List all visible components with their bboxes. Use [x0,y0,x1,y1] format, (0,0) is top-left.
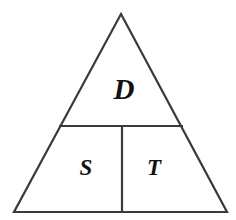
region-label-t: T [147,155,162,180]
diagram-background [0,0,236,220]
partitioned-triangle-diagram: D S T [0,0,236,220]
region-label-s: S [80,155,93,180]
region-label-d: D [113,73,135,105]
diagram-canvas: D S T [0,0,236,220]
